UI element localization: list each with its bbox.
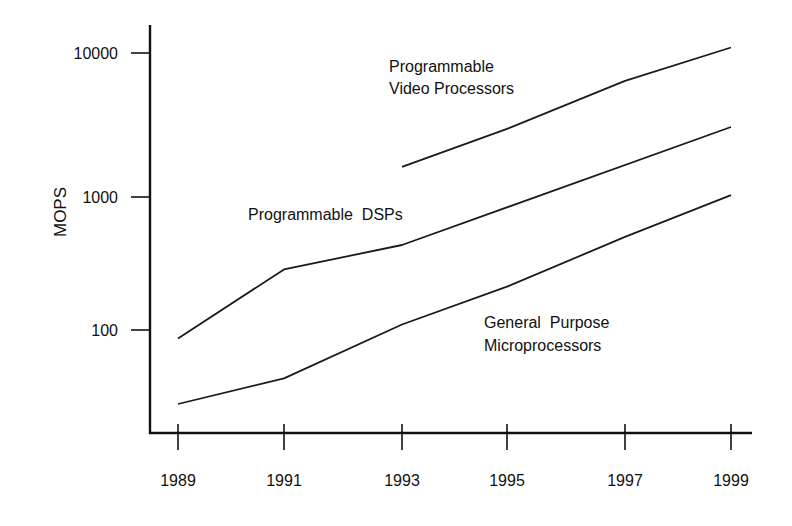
series-lines [178, 48, 731, 405]
y-tick-label: 1000 [82, 189, 118, 206]
x-tick-label: 1993 [384, 472, 420, 489]
x-tick-label: 1989 [160, 472, 196, 489]
y-ticks: 100100010000 [74, 45, 151, 339]
series-labels: ProgrammableVideo ProcessorsProgrammable… [248, 58, 610, 354]
x-tick-label: 1999 [713, 472, 749, 489]
y-axis-label: MOPS [51, 187, 70, 237]
series-dsps-line [178, 127, 731, 339]
mops-line-chart: 100100010000 198919911993199519971999 Pr… [0, 0, 792, 526]
y-tick-label: 10000 [74, 45, 119, 62]
x-tick-label: 1995 [489, 472, 525, 489]
series-dsps-label: Programmable DSPs [248, 206, 403, 223]
x-tick-label: 1997 [607, 472, 643, 489]
y-tick-label: 100 [91, 322, 118, 339]
series-general-purpose-mpus-label: General PurposeMicroprocessors [484, 314, 610, 354]
x-tick-label: 1991 [266, 472, 302, 489]
series-video-processors-label: ProgrammableVideo Processors [389, 58, 514, 97]
